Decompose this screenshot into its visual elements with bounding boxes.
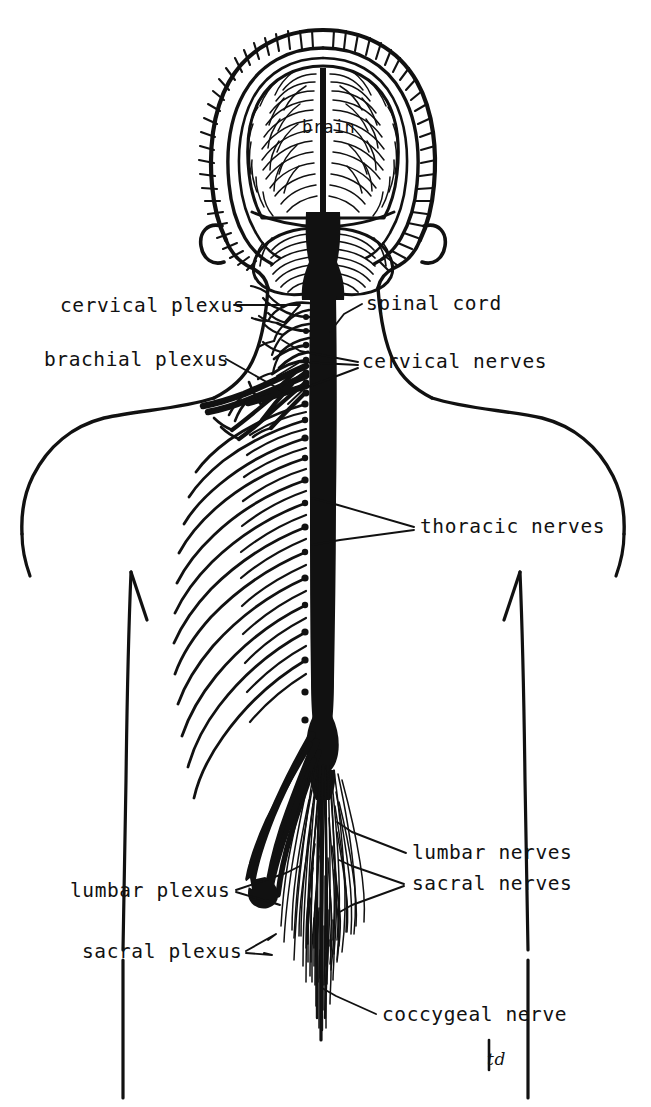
signature-text: td [487,1049,506,1069]
leader-sacral-plexus-b [246,953,272,955]
thoracic-intercostal-nerves [174,400,309,798]
label-brachial-plexus: brachial plexus [44,348,229,371]
label-coccygeal-nerve: coccygeal nerve [382,1003,567,1026]
leader-sacral-plexus [246,934,276,951]
label-sacral-nerves: sacral nerves [412,872,572,895]
artist-signature: td [487,1040,506,1070]
label-lumbar-nerves: lumbar nerves [412,841,572,864]
label-thoracic-nerves: thoracic nerves [420,515,605,538]
nervous-system-figure: brain [0,0,651,1107]
brain-label: brain [302,117,355,137]
label-cervical-plexus: cervical plexus [60,294,245,317]
label-cervical-nerves: cervical nerves [362,350,547,373]
label-lumbar-plexus: lumbar plexus [70,879,230,902]
spinal-cord-column [306,296,339,800]
anatomical-illustration: brain [0,0,651,1107]
label-sacral-plexus: sacral plexus [82,940,242,963]
label-spinal-cord: spinal cord [366,292,502,315]
